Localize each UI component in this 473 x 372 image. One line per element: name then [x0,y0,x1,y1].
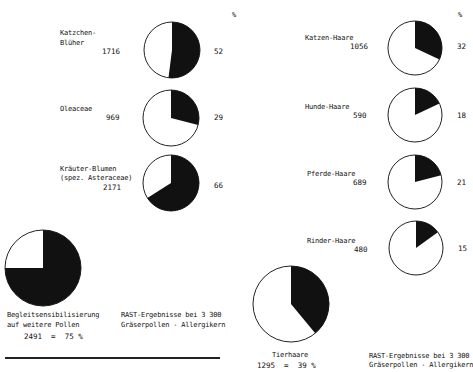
label-kraeuter-line2: (spez. Asteraceae) [60,174,132,183]
pie-rinder-haare [389,221,443,275]
caption-right-line1: RAST-Ergebnisse bei 3 300 [369,352,469,361]
caption-left-line1: RAST-Ergebnisse bei 3 300 [121,311,221,320]
count-oleaceae: 969 [106,113,120,122]
pie-hunde-haare [388,88,442,142]
count-hunde-haare: 590 [353,111,367,120]
label-katzchen-line1: Katzchen- [60,29,96,38]
label-katzchen-line2: Blüher [60,39,84,48]
pct-rinder-haare: 15 [458,244,467,253]
summary-left-line1: Begleitsensibilisierung [7,311,99,320]
left-percent-header: % [232,11,236,20]
label-hunde-haare: Hunde-Haare [305,103,349,112]
count-rinder-haare: 480 [354,245,368,254]
label-kraeuter-line1: Kräuter-Blumen [60,165,116,174]
label-pferde-haare: Pferde-Haare [307,170,355,179]
divider-line [5,357,220,359]
label-oleaceae: Oleaceae [60,105,92,114]
pie-katzen-haare [388,21,442,75]
right-percent-header: % [458,11,462,20]
count-kraeuter: 2171 [103,183,121,192]
summary-right-line1: Tierhaare [272,351,308,360]
summary-left-value: 2491 = 75 % [24,332,83,341]
pie-katzchen [144,22,200,78]
pie-pferde-haare [388,155,442,209]
pie-begleitsensibilisierung [5,230,81,306]
pct-hunde-haare: 18 [457,111,466,120]
pie-kraeuter [143,155,199,211]
pct-katzen-haare: 32 [457,42,466,51]
count-katzen-haare: 1056 [350,42,368,51]
summary-right-value: 1295 = 39 % [257,361,316,370]
pie-oleaceae [143,90,199,146]
caption-right-line2: Gräserpollen - Allergikern [369,361,473,370]
pct-pferde-haare: 21 [457,178,466,187]
pct-oleaceae: 29 [214,113,223,122]
summary-left-line2: auf weitere Pollen [7,321,79,330]
caption-left-line2: Gräserpollen - Allergikern [121,321,225,330]
pct-katzchen: 52 [214,47,223,56]
count-katzchen: 1716 [102,47,120,56]
pie-tierhaare [253,266,329,342]
label-katzen-haare: Katzen-Haare [305,34,353,43]
label-rinder-haare: Rinder-Haare [307,237,355,246]
pct-kraeuter: 66 [214,181,223,190]
count-pferde-haare: 689 [353,178,367,187]
